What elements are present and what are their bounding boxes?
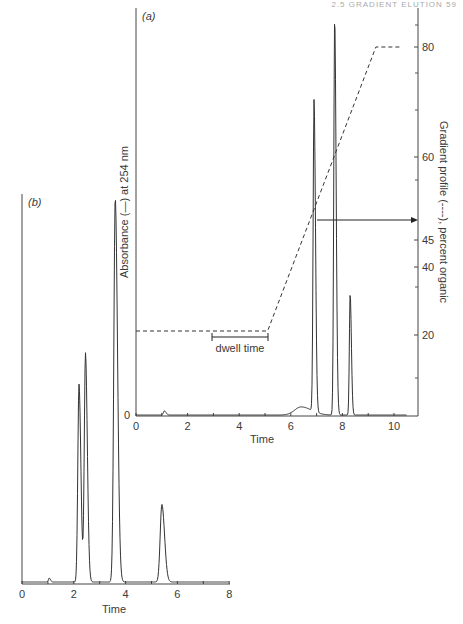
x-tick-label: 0 xyxy=(19,588,25,600)
a-y-label: Absorbance (—) at 254 nm xyxy=(118,146,130,278)
x-tick-label: 10 xyxy=(388,420,400,432)
x-tick-label: 8 xyxy=(339,420,345,432)
x-tick-label: 0 xyxy=(133,420,139,432)
y2-tick-label: 45 xyxy=(422,234,434,246)
a-x-label: Time xyxy=(250,433,274,445)
b-panel-label: (b) xyxy=(28,196,42,208)
x-tick-label: 8 xyxy=(226,588,232,600)
a-y2-label: Gradient profile (----), percent organic xyxy=(438,121,450,304)
chart-a: 0246810 2040456080 0 (a) Time Absorbance… xyxy=(118,8,450,445)
x-tick-label: 2 xyxy=(185,420,191,432)
x-tick-label: 6 xyxy=(288,420,294,432)
x-tick-label: 4 xyxy=(236,420,242,432)
x-tick-label: 6 xyxy=(174,588,180,600)
dwell-time-label: dwell time xyxy=(216,342,265,354)
b-x-label: Time xyxy=(102,603,126,615)
x-tick-label: 4 xyxy=(123,588,129,600)
a-panel-label: (a) xyxy=(142,10,156,22)
figure: 02468 (b) Time 0246810 2040456080 0 (a) … xyxy=(0,0,463,624)
y2-tick-label: 80 xyxy=(422,41,434,53)
x-tick-label: 2 xyxy=(71,588,77,600)
y2-tick-label: 60 xyxy=(422,151,434,163)
y2-tick-label: 40 xyxy=(422,261,434,273)
y2-tick-label: 20 xyxy=(422,329,434,341)
a-y-zero-label: 0 xyxy=(124,409,130,421)
